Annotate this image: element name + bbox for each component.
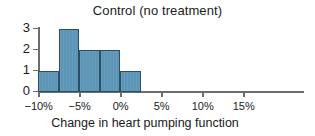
histogram-figure: Control (no treatment) 3 2 1 0 −10% −5% … [0, 0, 315, 136]
y-tick-label-2: 2 [16, 42, 30, 55]
x-tick-label-15: 15% [222, 100, 266, 112]
x-tick-label-neg5: −5% [58, 100, 102, 112]
x-tick-label-0: 0% [99, 100, 143, 112]
y-tick-label-0: 0 [16, 84, 30, 97]
x-tick-label-5: 5% [140, 100, 184, 112]
y-tick-2 [33, 49, 38, 51]
histogram-bar [79, 50, 100, 92]
histogram-bar [59, 29, 80, 92]
histogram-bar [100, 50, 121, 92]
x-tick-neg10 [38, 92, 40, 97]
x-tick-5 [161, 92, 163, 97]
x-tick-10 [202, 92, 204, 97]
y-tick-label-1: 1 [16, 63, 30, 76]
x-tick-0 [120, 92, 122, 97]
y-tick-label-3: 3 [16, 21, 30, 34]
histogram-bar [38, 71, 59, 92]
y-tick-3 [33, 28, 38, 30]
histogram-bar [120, 71, 141, 92]
x-axis-label: Change in heart pumping function [0, 116, 290, 130]
x-tick-label-neg10: −10% [17, 100, 61, 112]
x-tick-15 [243, 92, 245, 97]
x-tick-neg5 [79, 92, 81, 97]
x-tick-label-10: 10% [181, 100, 225, 112]
